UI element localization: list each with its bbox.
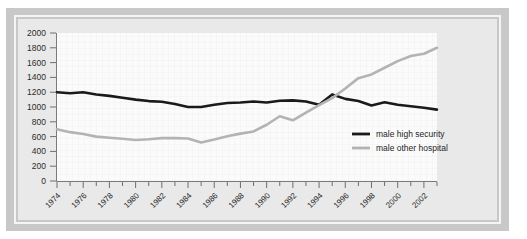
y-axis-tick-label: 1400 <box>27 72 46 82</box>
y-axis-tick-label: 1000 <box>27 102 46 112</box>
x-axis-tick-label: 1990 <box>253 191 272 210</box>
y-axis-tick-label: 0 <box>41 176 46 186</box>
legend-label: male other hospital <box>376 143 448 153</box>
x-axis-tick-label: 1996 <box>332 191 351 210</box>
chart-figure: 0200400600800100012001400160018002000 19… <box>0 0 527 239</box>
y-axis-ticks <box>50 33 56 181</box>
plot-area-gridlines <box>57 33 437 181</box>
line-chart: 0200400600800100012001400160018002000 19… <box>0 0 527 239</box>
y-axis-tick-label: 600 <box>32 132 46 142</box>
x-axis-tick-label: 1994 <box>306 191 325 210</box>
x-axis-tick-label: 1992 <box>279 191 298 210</box>
x-axis-tick-label: 1980 <box>122 191 141 210</box>
y-axis-tick-label: 1200 <box>27 87 46 97</box>
x-axis-tick-label: 2000 <box>384 191 403 210</box>
y-axis-tick-label: 2000 <box>27 28 46 38</box>
y-axis-tick-labels: 0200400600800100012001400160018002000 <box>27 28 46 186</box>
legend-label: male high security <box>376 129 445 139</box>
x-axis-tick-label: 1984 <box>175 191 194 210</box>
x-axis-tick-label: 1982 <box>148 191 167 210</box>
x-axis-ticks <box>57 182 437 188</box>
y-axis: 0200400600800100012001400160018002000 <box>27 28 56 186</box>
y-axis-tick-label: 400 <box>32 146 46 156</box>
x-axis-tick-label: 1986 <box>201 191 220 210</box>
x-axis-tick-label: 1988 <box>227 191 246 210</box>
y-axis-tick-label: 800 <box>32 117 46 127</box>
x-axis-tick-label: 2002 <box>410 191 429 210</box>
y-axis-tick-label: 1600 <box>27 58 46 68</box>
y-axis-tick-label: 200 <box>32 161 46 171</box>
x-axis-tick-label: 1976 <box>70 191 89 210</box>
x-axis-tick-label: 1998 <box>358 191 377 210</box>
x-axis-tick-labels: 1974197619781980198219841986198819901992… <box>43 191 429 210</box>
x-axis: 1974197619781980198219841986198819901992… <box>43 182 437 210</box>
x-axis-tick-label: 1974 <box>43 191 62 210</box>
y-axis-tick-label: 1800 <box>27 43 46 53</box>
x-axis-tick-label: 1978 <box>96 191 115 210</box>
